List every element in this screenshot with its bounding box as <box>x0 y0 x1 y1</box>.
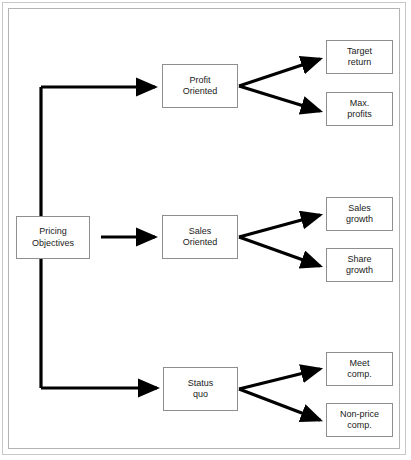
node-label: Sales Oriented <box>183 226 218 249</box>
connector-profit-to-max-profits <box>239 86 320 111</box>
node-label: Meet comp. <box>347 358 372 381</box>
node-label: Pricing Objectives <box>32 226 74 249</box>
connector-profit-to-target-return <box>239 59 320 86</box>
node-label: Sales growth <box>346 203 373 226</box>
node-share-growth[interactable]: Share growth <box>326 248 393 282</box>
node-label: Max. profits <box>347 98 372 121</box>
node-label: Status quo <box>188 378 214 401</box>
diagram-canvas: Pricing Objectives Profit Oriented Sales… <box>0 0 411 460</box>
connector-sales-to-share-growth <box>239 237 320 266</box>
node-label: Profit Oriented <box>183 75 218 98</box>
connector-status-to-non-price-comp <box>239 389 320 420</box>
node-pricing-objectives[interactable]: Pricing Objectives <box>16 216 90 259</box>
node-non-price-comp[interactable]: Non-price comp. <box>326 403 393 437</box>
node-target-return[interactable]: Target return <box>326 40 393 74</box>
node-sales-growth[interactable]: Sales growth <box>326 197 393 231</box>
connector-status-to-meet-comp <box>239 369 320 389</box>
node-label: Share growth <box>346 254 373 277</box>
node-sales-oriented[interactable]: Sales Oriented <box>162 215 238 259</box>
node-max-profits[interactable]: Max. profits <box>326 92 393 126</box>
node-label: Target return <box>347 46 372 69</box>
node-label: Non-price comp. <box>340 409 379 432</box>
connector-sales-to-sales-growth <box>239 215 320 237</box>
node-status-quo[interactable]: Status quo <box>163 367 238 411</box>
node-profit-oriented[interactable]: Profit Oriented <box>162 64 238 108</box>
node-meet-comp[interactable]: Meet comp. <box>326 352 393 386</box>
